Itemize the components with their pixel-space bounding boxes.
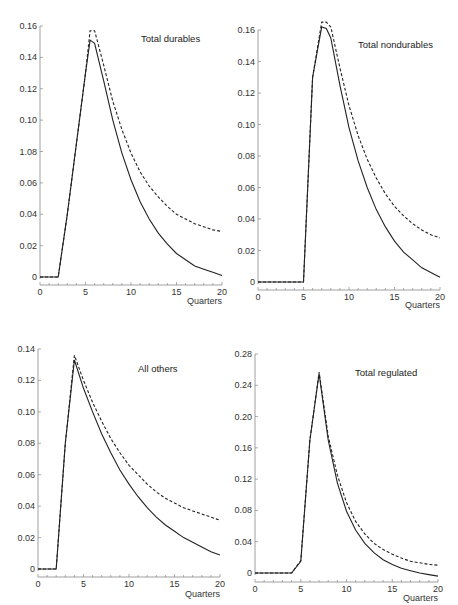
series-line-solid <box>258 27 440 282</box>
series-line-dashed <box>255 372 438 573</box>
x-tick-label: 5 <box>81 579 86 589</box>
y-tick-label: 0.24 <box>234 380 252 390</box>
y-tick-label: 0.14 <box>17 344 35 354</box>
x-tick-label: 0 <box>255 292 260 302</box>
x-axis-label: Quarters <box>185 589 221 599</box>
chart-all-others: 00.020.040.060.080.100.120.1405101520Qua… <box>17 344 225 599</box>
y-tick-label: 0.20 <box>234 412 252 422</box>
chart-total-regulated: 00.040.080.120.160.200.240.2805101520Qua… <box>234 349 443 603</box>
y-tick-label: 0.04 <box>234 537 252 547</box>
x-tick-label: 10 <box>344 292 354 302</box>
x-tick-label: 15 <box>171 287 181 297</box>
y-tick-label: 0.02 <box>237 246 255 256</box>
y-tick-label: 0.14 <box>19 52 37 62</box>
x-tick-label: 10 <box>126 287 136 297</box>
x-tick-label: 5 <box>83 287 88 297</box>
y-tick-label: 0.10 <box>237 120 255 130</box>
y-tick-label: 0.16 <box>234 443 252 453</box>
x-tick-label: 0 <box>37 287 42 297</box>
y-tick-label: 0.08 <box>237 151 255 161</box>
chart-title: Total nondurables <box>358 39 433 50</box>
y-tick-label: 0.06 <box>19 178 37 188</box>
x-tick-label: 10 <box>341 584 351 594</box>
y-tick-label: 1.08 <box>19 147 37 157</box>
y-tick-label: 0.28 <box>234 349 252 359</box>
y-tick-label: 0.16 <box>19 21 37 31</box>
chart-title: All others <box>138 363 178 374</box>
y-tick-label: 0 <box>247 568 252 578</box>
x-axis-label: Quarters <box>405 300 441 310</box>
x-tick-label: 0 <box>35 579 40 589</box>
chart-total-durables: 00.020.040.061.080.100.120.140.160510152… <box>19 21 227 306</box>
y-tick-label: 0 <box>32 272 37 282</box>
y-tick-label: 0.04 <box>19 209 37 219</box>
y-tick-label: 0.10 <box>19 115 37 125</box>
chart-title: Total regulated <box>355 367 417 378</box>
y-tick-label: 0.04 <box>17 501 35 511</box>
figure-canvas: 00.020.040.061.080.100.120.140.160510152… <box>0 0 458 605</box>
y-tick-label: 0 <box>250 277 255 287</box>
y-tick-label: 0.08 <box>17 438 35 448</box>
x-tick-label: 15 <box>387 584 397 594</box>
chart-title: Total durables <box>141 33 200 44</box>
chart-total-nondurables: 00.020.040.060.080.100.120.140.160510152… <box>237 22 445 310</box>
series-line-dashed <box>258 22 440 282</box>
y-tick-label: 0.02 <box>19 241 37 251</box>
x-tick-label: 0 <box>252 584 257 594</box>
y-tick-label: 0.14 <box>237 57 255 67</box>
y-tick-label: 0.16 <box>237 25 255 35</box>
y-tick-label: 0.10 <box>17 407 35 417</box>
x-tick-label: 10 <box>124 579 134 589</box>
x-tick-label: 15 <box>389 292 399 302</box>
y-tick-label: 0.02 <box>17 533 35 543</box>
y-tick-label: 0.06 <box>17 470 35 480</box>
y-tick-label: 0.04 <box>237 214 255 224</box>
x-axis-label: Quarters <box>403 593 439 603</box>
y-tick-label: 0 <box>30 564 35 574</box>
x-tick-label: 15 <box>169 579 179 589</box>
y-tick-label: 0.12 <box>237 88 255 98</box>
x-tick-label: 20 <box>215 579 225 589</box>
series-line-solid <box>40 40 222 277</box>
x-tick-label: 5 <box>301 292 306 302</box>
x-tick-label: 5 <box>298 584 303 594</box>
y-tick-label: 0.12 <box>19 84 37 94</box>
y-tick-label: 0.06 <box>237 183 255 193</box>
y-tick-label: 0.12 <box>17 375 35 385</box>
y-tick-label: 0.08 <box>234 505 252 515</box>
series-line-solid <box>255 374 438 576</box>
x-axis-label: Quarters <box>187 296 223 306</box>
y-tick-label: 0.12 <box>234 474 252 484</box>
series-line-dashed <box>38 355 220 569</box>
series-line-dashed <box>40 31 222 277</box>
